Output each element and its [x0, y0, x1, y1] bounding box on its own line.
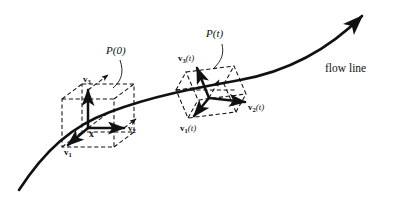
vector-v3t-arrow — [197, 68, 209, 98]
parallelepiped-transported-edges — [176, 66, 246, 118]
vector-v1t-arrow — [194, 98, 209, 116]
label-vector-v3: v3 — [83, 75, 91, 85]
diagram-canvas — [0, 0, 398, 210]
flow-line-diagram: P(0) P(t) v3 v2 v1 x v3(t) v2(t) v1(t) f… — [0, 0, 398, 210]
parallelepiped-initial-inner-edges — [88, 75, 136, 128]
label-origin-x: x — [89, 130, 94, 140]
parallelepiped-initial-edges — [62, 84, 134, 147]
pt-leader-line — [214, 44, 223, 68]
flow-line-curve — [19, 16, 362, 190]
label-flow-line: flow line — [325, 63, 366, 75]
label-vector-v2: v2 — [128, 124, 136, 134]
label-p-t: P(t) — [206, 28, 223, 39]
label-p-zero: P(0) — [106, 45, 126, 56]
p0-leader-line — [113, 60, 122, 88]
label-vector-v1: v1 — [64, 148, 72, 158]
vector-v2t-arrow — [209, 98, 245, 102]
label-vector-v1t: v1(t) — [180, 124, 196, 134]
label-vector-v3t: v3(t) — [178, 54, 194, 64]
label-vector-v2t: v2(t) — [248, 103, 264, 113]
vector-v1-arrow — [68, 128, 88, 145]
